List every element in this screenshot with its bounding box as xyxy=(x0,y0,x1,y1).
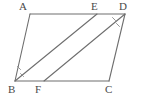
vertex-label-c: C xyxy=(105,84,112,95)
vertex-label-b: B xyxy=(8,84,15,95)
vertex-label-f: F xyxy=(35,84,41,95)
vertex-label-a: A xyxy=(19,1,27,12)
angle-tick-d-lower-icon xyxy=(117,24,120,27)
geometry-figure: A E D B F C xyxy=(0,0,141,110)
vertex-label-e: E xyxy=(91,1,98,12)
vertex-label-d: D xyxy=(119,1,127,12)
figure-canvas xyxy=(0,0,141,110)
angle-tick-d-upper-icon xyxy=(113,18,116,21)
